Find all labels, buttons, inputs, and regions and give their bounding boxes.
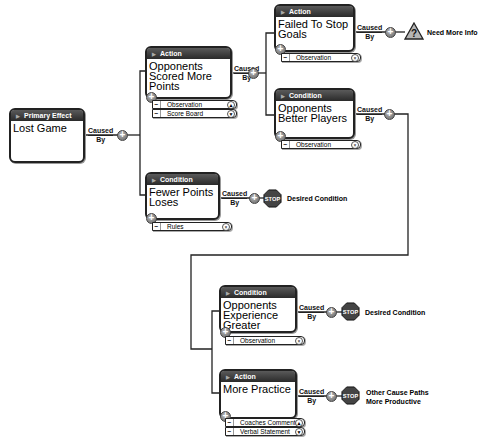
node-title[interactable]: More Practice <box>221 382 295 396</box>
evidence-row[interactable]: −Observation× <box>281 140 361 149</box>
scroll-icon[interactable]: ▼ <box>295 428 303 436</box>
add-cause-button[interactable]: + <box>117 130 128 141</box>
node-type-header: ▶Condition <box>221 287 295 298</box>
node-type-header: ▶Action <box>147 48 230 59</box>
add-cause-button[interactable]: + <box>326 391 337 402</box>
remove-evidence-button[interactable]: − <box>282 141 290 148</box>
expand-triangle-icon[interactable]: ▶ <box>152 177 156 183</box>
add-cause-button[interactable]: + <box>326 307 337 318</box>
svg-text:?: ? <box>411 28 417 39</box>
node-type-header: ▶Primary Effect <box>11 110 83 121</box>
scroll-icon[interactable]: ▲ <box>227 101 235 109</box>
expand-triangle-icon[interactable]: ▶ <box>226 290 230 296</box>
caused-by-label: CausedBy <box>88 127 113 144</box>
expand-triangle-icon[interactable]: ▶ <box>281 93 285 99</box>
remove-evidence-button[interactable]: − <box>153 110 161 117</box>
evidence-row[interactable]: −Observation▲ <box>152 100 237 109</box>
node-title[interactable]: Fewer Points Loses <box>147 185 218 209</box>
warning-question-icon: ? <box>404 22 424 40</box>
node-title[interactable]: Opponents Experience Greater <box>221 298 295 332</box>
node-condition[interactable]: ▶Condition Opponents Experience Greater <box>219 285 297 333</box>
remove-icon[interactable]: × <box>351 141 359 149</box>
node-action[interactable]: ▶Action Failed To Stop Goals <box>274 4 355 52</box>
node-title[interactable]: Opponents Scored More Points <box>147 59 230 93</box>
scroll-icon[interactable]: ▼ <box>227 110 235 118</box>
node-title[interactable]: Opponents Better Players <box>276 101 353 125</box>
add-cause-button[interactable]: + <box>249 193 260 204</box>
remove-evidence-button[interactable]: − <box>282 54 290 61</box>
remove-evidence-button[interactable]: − <box>226 419 234 426</box>
stop-sign-icon: STOP <box>341 386 360 405</box>
remove-evidence-button[interactable]: − <box>153 101 161 108</box>
evidence-row[interactable]: −Observation× <box>225 336 305 345</box>
node-type-header: ▶Action <box>221 371 295 382</box>
node-condition[interactable]: ▶Condition Opponents Better Players <box>274 88 355 139</box>
terminal-note: Desired Condition <box>365 308 425 317</box>
remove-icon[interactable]: × <box>295 337 303 345</box>
evidence-row[interactable]: −Observation× <box>281 53 361 62</box>
remove-icon[interactable]: × <box>351 54 359 62</box>
remove-evidence-button[interactable]: − <box>226 428 234 435</box>
remove-icon[interactable]: × <box>222 223 230 231</box>
add-cause-button[interactable]: + <box>248 68 259 79</box>
node-type-header: ▶Condition <box>147 174 218 185</box>
stop-sign-icon: STOP <box>263 189 282 208</box>
scroll-icon[interactable]: ▲ <box>295 419 303 427</box>
node-primary-effect[interactable]: ▶Primary Effect Lost Game <box>9 108 85 163</box>
expand-triangle-icon[interactable]: ▶ <box>226 374 230 380</box>
terminal-note: Need More Info <box>427 28 478 37</box>
node-action[interactable]: ▶Action Opponents Scored More Points <box>145 46 232 99</box>
add-cause-button[interactable]: + <box>385 27 396 38</box>
add-cause-button[interactable]: + <box>384 109 395 120</box>
evidence-row[interactable]: −Rules× <box>152 222 232 231</box>
expand-triangle-icon[interactable]: ▶ <box>16 113 20 119</box>
node-title[interactable]: Lost Game <box>11 121 83 135</box>
stop-sign-icon: STOP <box>341 302 360 321</box>
terminal-note: Desired Condition <box>287 194 347 203</box>
terminal-note: Other Cause Paths More Productive <box>366 388 436 406</box>
node-title[interactable]: Failed To Stop Goals <box>276 17 353 41</box>
caused-by-label: CausedBy <box>299 388 324 405</box>
node-action[interactable]: ▶Action More Practice <box>219 369 297 419</box>
evidence-row[interactable]: −Coaches Comment▲ <box>225 418 305 427</box>
node-condition[interactable]: ▶Condition Fewer Points Loses <box>145 172 220 220</box>
caused-by-label: CausedBy <box>357 106 382 123</box>
expand-triangle-icon[interactable]: ▶ <box>152 51 156 57</box>
expand-triangle-icon[interactable]: ▶ <box>281 9 285 15</box>
remove-evidence-button[interactable]: − <box>226 337 234 344</box>
svg-text:STOP: STOP <box>343 309 359 315</box>
caused-by-label: CausedBy <box>357 24 382 41</box>
caused-by-label: CausedBy <box>299 304 324 321</box>
remove-evidence-button[interactable]: − <box>153 223 161 230</box>
evidence-row[interactable]: −Score Board▼ <box>152 109 237 118</box>
node-type-header: ▶Action <box>276 6 353 17</box>
caused-by-label: CausedBy <box>222 190 247 207</box>
svg-text:STOP: STOP <box>343 393 359 399</box>
node-type-header: ▶Condition <box>276 90 353 101</box>
evidence-row[interactable]: −Verbal Statement▼ <box>225 427 305 436</box>
svg-text:STOP: STOP <box>265 196 281 202</box>
